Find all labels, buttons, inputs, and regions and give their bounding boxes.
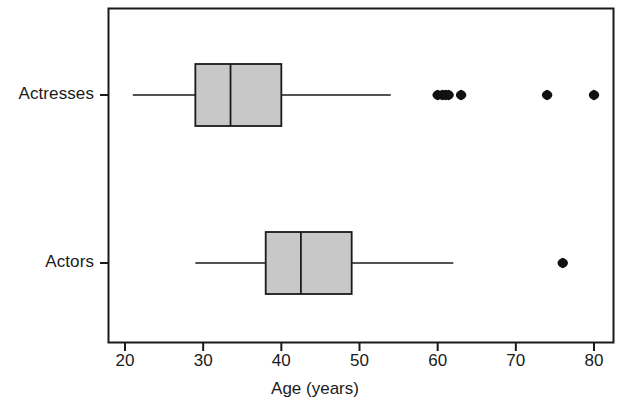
x-tick-label-20: 20 [105,351,145,371]
y-axis-label-actors: Actors [0,252,94,272]
outlier-point [589,90,599,100]
outlier-point [542,90,552,100]
box-iqr-actors [266,232,352,294]
x-axis-title: Age (years) [0,379,630,399]
y-axis-label-actresses: Actresses [0,84,94,104]
boxplot-figure: Actresses Actors 20 30 40 50 60 70 80 Ag… [0,0,630,407]
x-tick-label-70: 70 [496,351,536,371]
x-tick-label-60: 60 [418,351,458,371]
x-axis-ticks [125,343,594,352]
outlier-point [558,258,568,268]
y-axis-ticks [100,95,109,263]
plot-frame [109,9,614,343]
box-plot-actors [195,232,568,294]
x-tick-label-40: 40 [261,351,301,371]
x-tick-label-30: 30 [183,351,223,371]
box-plots-group [133,64,599,294]
boxplot-canvas [0,0,630,407]
x-tick-label-80: 80 [574,351,614,371]
box-plot-actresses [133,64,599,126]
outlier-point [456,90,466,100]
box-iqr-actresses [195,64,281,126]
x-tick-label-50: 50 [340,351,380,371]
